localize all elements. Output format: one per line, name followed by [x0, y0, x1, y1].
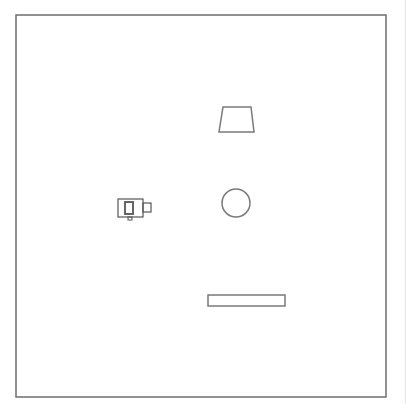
camera-icon — [118, 199, 151, 220]
diagram-canvas — [0, 0, 407, 404]
trapezoid-shape — [219, 107, 254, 132]
camera-lens — [143, 203, 151, 212]
camera-inner-square — [125, 202, 133, 214]
bar-rectangle — [208, 295, 285, 306]
circle-shape — [222, 189, 250, 217]
room-frame — [16, 15, 386, 397]
camera-foot — [128, 217, 132, 220]
